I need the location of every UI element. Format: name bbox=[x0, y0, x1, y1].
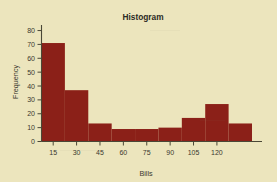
paper-grain bbox=[0, 0, 277, 182]
histogram-svg: Histogram Frequency Bills 01020304050607… bbox=[0, 0, 277, 182]
histogram-figure: Histogram Frequency Bills 01020304050607… bbox=[0, 0, 277, 182]
